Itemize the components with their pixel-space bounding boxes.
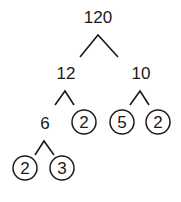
node-6: 6 [40,114,49,133]
branch-6 [35,141,54,155]
node-prime-2: 2 [20,159,29,178]
node-prime-3: 3 [57,159,66,178]
node-prime-2: 2 [79,113,88,132]
node-prime-2: 2 [153,113,162,132]
factor-tree: 120 12 10 6 2 5 2 2 3 [0,0,181,202]
branch-12 [55,91,74,105]
branch-120 [80,35,118,57]
node-12: 12 [57,64,76,83]
node-prime-5: 5 [117,113,126,132]
node-120: 120 [84,8,112,27]
node-10: 10 [132,64,151,83]
branch-10 [130,91,149,105]
